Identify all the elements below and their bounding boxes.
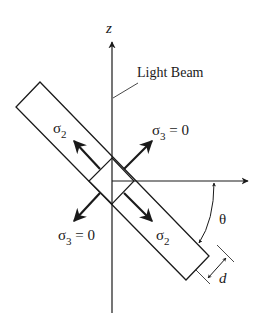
sigma2-upper-label: σ2 [53, 120, 67, 140]
sigma3-lower-label: σ3 = 0 [58, 227, 95, 247]
sigma3-upper-label: σ3 = 0 [152, 122, 189, 142]
sigma2-upper-arrow [74, 141, 100, 169]
light-beam-leader [113, 83, 138, 98]
sigma3-lower-arrow [74, 193, 100, 221]
theta-label: θ [219, 211, 226, 227]
theta-arc [199, 183, 214, 243]
thickness-label: d [219, 270, 227, 286]
d-extension-2 [217, 245, 234, 262]
sigma2-lower-arrow [124, 193, 152, 221]
z-axis-label: z [105, 20, 112, 36]
sigma2-lower-label: σ2 [156, 227, 170, 247]
light-beam-label: Light Beam [137, 65, 204, 80]
d-extension-1 [196, 270, 210, 284]
sigma3-upper-arrow [124, 141, 152, 169]
diagram-canvas: z Light Beam σ2 σ3 = 0 σ3 = 0 σ2 θ d [0, 0, 268, 329]
